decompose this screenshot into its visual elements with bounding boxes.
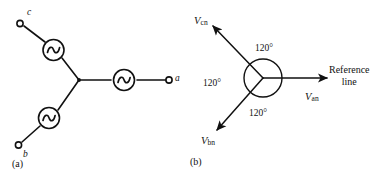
phasor-label-vcn-sub: cn bbox=[200, 18, 207, 27]
panel-a-drawing bbox=[0, 0, 190, 173]
figure-root: c a b (a) Vcn bbox=[0, 0, 377, 173]
wire-c-lower bbox=[62, 58, 79, 80]
panel-b-phasor-diagram: Vcn Van Vbn 120° 120° 120° Reference lin… bbox=[187, 0, 377, 173]
phasor-label-vbn-sub: bn bbox=[207, 138, 215, 147]
terminal-c-circle bbox=[17, 20, 23, 26]
terminal-label-b: b bbox=[23, 150, 28, 160]
ac-source-b bbox=[39, 108, 60, 129]
ac-source-c bbox=[43, 40, 64, 61]
panel-b-caption: (b) bbox=[190, 157, 202, 167]
ac-source-a bbox=[114, 70, 135, 91]
angle-label-bottom: 120° bbox=[249, 109, 267, 119]
panel-a-wye-source-schematic: c a b (a) bbox=[0, 0, 190, 173]
reference-line-label-line2: line bbox=[342, 76, 357, 87]
angle-label-left: 120° bbox=[203, 79, 221, 89]
phasor-arrow-vbn bbox=[217, 78, 263, 130]
wire-b-upper bbox=[58, 80, 79, 110]
wire-c-upper bbox=[24, 26, 45, 42]
angle-label-top: 120° bbox=[255, 44, 273, 54]
phasor-label-van-sub: an bbox=[311, 94, 318, 103]
wire-b-lower bbox=[22, 126, 40, 142]
terminal-b-circle bbox=[15, 142, 21, 148]
phasor-label-vcn: Vcn bbox=[194, 16, 208, 27]
reference-line-label: Reference line bbox=[329, 64, 370, 87]
panel-a-caption: (a) bbox=[12, 159, 23, 169]
phasor-label-vbn: Vbn bbox=[201, 136, 215, 147]
reference-line-label-line1: Reference bbox=[329, 64, 370, 75]
terminal-a-circle bbox=[166, 77, 172, 83]
phasor-label-van: Van bbox=[305, 92, 319, 103]
terminal-label-c: c bbox=[27, 8, 31, 18]
neutral-node bbox=[77, 78, 81, 82]
terminal-label-a: a bbox=[175, 74, 180, 84]
